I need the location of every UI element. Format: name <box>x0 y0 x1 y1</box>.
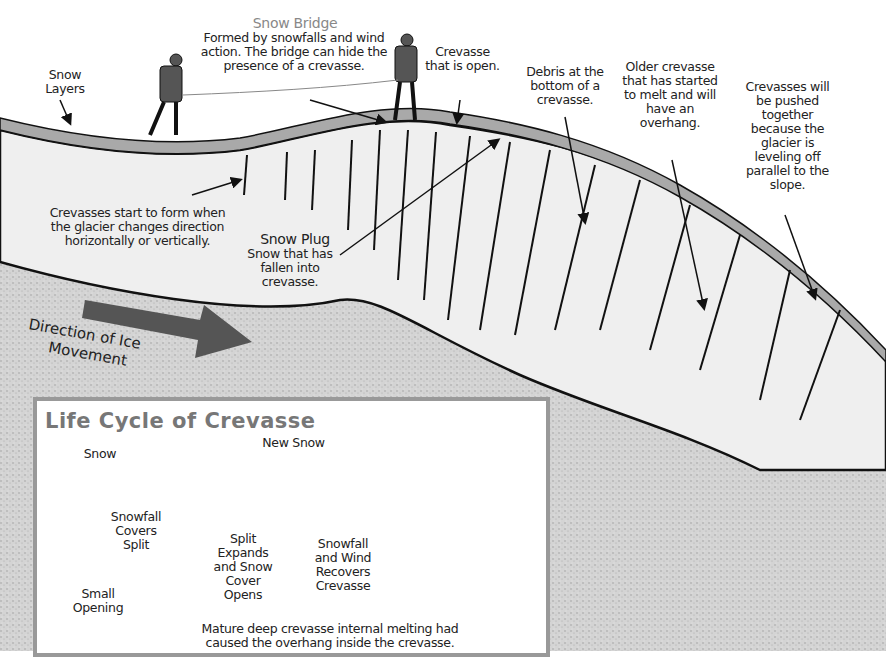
snow-bridge-title: Snow Bridge <box>220 16 370 31</box>
snow-plug-desc: Snow that has fallen into crevasse. <box>240 247 340 289</box>
stage-4-label: Snowfall and Wind Recovers Crevasse <box>308 537 378 593</box>
stage-1-label: Small Opening <box>68 587 128 615</box>
snow-label: Snow <box>75 447 125 461</box>
stage-3-label: Split Expands and Snow Cover Opens <box>212 532 274 602</box>
climber-figure-left <box>150 54 182 135</box>
pushed-together-label: Crevasses will be pushed together becaus… <box>740 80 835 192</box>
snow-plug-title: Snow Plug <box>240 232 350 247</box>
snow-layers-label: Snow Layers <box>40 68 90 96</box>
rope <box>183 80 398 95</box>
inset-title: Life Cycle of Crevasse <box>45 409 316 433</box>
stage-2-label: Snowfall Covers Split <box>105 510 167 552</box>
snow-bridge-desc: Formed by snowfalls and wind action. The… <box>185 31 403 73</box>
stage-5-label: Mature deep crevasse internal melting ha… <box>180 622 480 650</box>
start-to-form-label: Crevasses start to form when the glacier… <box>45 206 230 248</box>
debris-label: Debris at the bottom of a crevasse. <box>515 65 615 107</box>
crevasse-open-label: Crevasse that is open. <box>425 45 500 73</box>
older-crevasse-label: Older crevasse that has started to melt … <box>620 60 720 130</box>
new-snow-label: New Snow <box>256 436 331 450</box>
